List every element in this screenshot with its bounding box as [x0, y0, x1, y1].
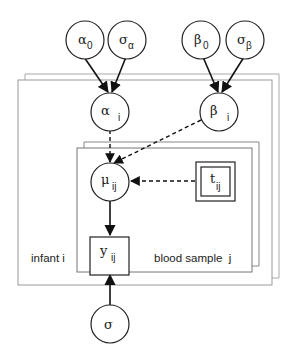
node-alpha-i: α i — [91, 93, 129, 131]
node-beta-i: β i — [200, 93, 238, 131]
svg-text:α: α — [128, 40, 134, 51]
plate-diagram: α 0 σ α β 0 σ β α i β i μ ij t ij y ij — [0, 0, 293, 362]
plate-label-blood-sample: blood sample j — [154, 252, 231, 264]
node-sigma: σ — [91, 305, 129, 343]
node-sigma-alpha: σ α — [108, 21, 146, 59]
svg-text:β: β — [246, 40, 252, 51]
svg-text:α: α — [78, 32, 87, 47]
svg-text:ij: ij — [111, 252, 115, 263]
svg-text:μ: μ — [101, 172, 109, 187]
node-sigma-beta: σ β — [226, 21, 264, 59]
svg-text:σ: σ — [237, 32, 246, 47]
svg-text:α: α — [101, 103, 110, 118]
svg-text:i: i — [227, 112, 229, 123]
svg-text:β: β — [210, 103, 218, 118]
svg-text:σ: σ — [104, 317, 113, 332]
node-t-ij: t ij — [196, 162, 235, 201]
plate-label-infant: infant i — [31, 252, 65, 264]
svg-text:y: y — [99, 243, 108, 258]
svg-text:σ: σ — [119, 32, 128, 47]
svg-text:ij: ij — [216, 181, 220, 192]
svg-text:ij: ij — [112, 181, 116, 192]
svg-text:i: i — [118, 112, 120, 123]
node-alpha0: α 0 — [66, 21, 104, 59]
node-y-ij: y ij — [90, 237, 129, 275]
svg-text:0: 0 — [87, 40, 93, 51]
svg-text:0: 0 — [203, 40, 209, 51]
node-mu-ij: μ ij — [91, 163, 129, 201]
svg-text:β: β — [194, 32, 202, 47]
node-beta0: β 0 — [182, 21, 220, 59]
